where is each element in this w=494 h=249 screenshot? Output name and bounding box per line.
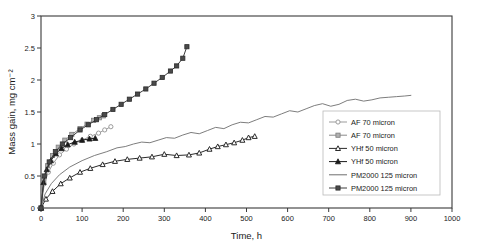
y-axis-ticks: 00.511.522.53: [25, 12, 41, 213]
series-marker: [152, 81, 156, 85]
y-tick-label: 3: [31, 12, 35, 21]
series-marker: [47, 160, 51, 164]
series-line: [41, 136, 255, 208]
series-marker: [168, 69, 172, 73]
series-marker: [207, 147, 212, 152]
series-marker: [137, 155, 142, 160]
chart-legend: AF 70 micronAF 70 micronYHf 50 micronYHf…: [323, 111, 440, 195]
series-marker: [68, 136, 72, 140]
series-marker: [88, 166, 93, 171]
series-marker: [78, 170, 83, 175]
y-tick-label: 1: [31, 140, 35, 149]
series-marker: [103, 112, 107, 116]
series-marker: [109, 125, 113, 129]
legend-label: AF 70 micron: [351, 118, 395, 127]
x-tick-label: 200: [117, 214, 130, 223]
legend-marker-filled-square-dark-icon: [336, 186, 340, 190]
series-marker: [223, 142, 228, 147]
x-tick-label: 1000: [444, 214, 461, 223]
legend-label: YHf 50 micron: [351, 144, 398, 153]
y-tick-label: 1.5: [25, 108, 35, 117]
series-marker: [64, 147, 68, 151]
series-marker: [197, 150, 202, 155]
x-tick-label: 700: [322, 214, 335, 223]
series-line: [41, 127, 111, 208]
series-marker: [78, 128, 82, 132]
series-marker: [181, 56, 185, 60]
series-marker: [174, 153, 179, 158]
y-tick-label: 2.5: [25, 44, 35, 53]
series-marker: [112, 159, 117, 164]
series-marker: [185, 45, 189, 49]
series-line: [41, 47, 187, 208]
series-marker: [86, 123, 90, 127]
series-marker: [127, 97, 131, 101]
legend-label: PM2000 125 micron: [351, 184, 417, 193]
series-marker: [175, 64, 179, 68]
series-marker: [60, 142, 64, 146]
x-axis-title: Time, h: [231, 230, 262, 241]
mass-gain-vs-time-chart: 01002003004005006007008009001000 00.511.…: [0, 0, 494, 249]
legend-label: PM2000 125 micron: [351, 171, 417, 180]
series-marker: [58, 181, 63, 186]
series-marker: [67, 175, 72, 180]
x-tick-label: 300: [158, 214, 171, 223]
legend-marker-open-circle-icon: [336, 120, 340, 124]
legend-label: AF 70 micron: [351, 131, 395, 140]
series-marker: [149, 154, 154, 159]
series-marker: [125, 157, 130, 162]
series-marker: [111, 107, 115, 111]
series-marker: [240, 138, 245, 143]
x-tick-label: 400: [199, 214, 212, 223]
series-marker: [252, 134, 257, 139]
series-marker: [135, 92, 139, 96]
series-marker: [53, 150, 57, 154]
series-marker: [215, 144, 220, 149]
series-marker: [39, 206, 43, 210]
x-tick-label: 0: [39, 214, 43, 223]
x-tick-label: 800: [364, 214, 377, 223]
series-marker: [246, 135, 251, 140]
series-marker: [103, 128, 107, 132]
series-marker: [144, 87, 148, 91]
y-tick-label: 0: [31, 204, 35, 213]
legend-label: YHf 50 micron: [351, 157, 398, 166]
x-tick-label: 900: [405, 214, 418, 223]
series-marker: [232, 140, 237, 145]
x-tick-label: 100: [76, 214, 89, 223]
series-marker: [96, 131, 100, 135]
y-tick-label: 2: [31, 76, 35, 85]
legend-marker-filled-square-gray-icon: [336, 133, 340, 137]
series-marker: [162, 152, 167, 157]
x-axis-ticks: 01002003004005006007008009001000: [39, 208, 460, 223]
y-axis-title: Mass gain, mg cm⁻²: [6, 69, 17, 154]
series-marker: [42, 174, 46, 178]
series-marker: [160, 75, 164, 79]
x-tick-label: 600: [281, 214, 294, 223]
series-marker: [94, 118, 98, 122]
series-marker: [119, 102, 123, 106]
chart-figure: 01002003004005006007008009001000 00.511.…: [0, 0, 494, 249]
series-marker: [186, 152, 191, 157]
series-marker: [100, 162, 105, 167]
y-tick-label: 0.5: [25, 172, 35, 181]
x-tick-label: 500: [240, 214, 253, 223]
